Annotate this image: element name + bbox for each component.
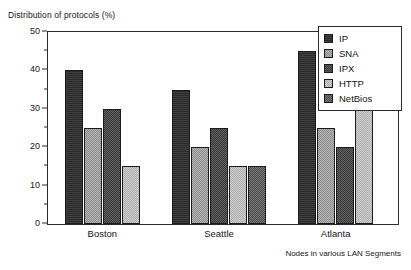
legend-item-label: SNA bbox=[339, 49, 359, 59]
bar bbox=[172, 90, 190, 224]
bar bbox=[298, 51, 316, 224]
x-axis: BostonSeattleAtlanta bbox=[48, 228, 398, 244]
bar bbox=[65, 70, 83, 224]
x-tick-label: Boston bbox=[88, 228, 118, 239]
y-tick-label: 20 bbox=[30, 141, 40, 151]
bar bbox=[336, 147, 354, 224]
x-axis-caption: Nodes in various LAN Segments bbox=[285, 249, 401, 258]
bar bbox=[355, 109, 373, 224]
chart-root: Distribution of protocols (%) 0102030405… bbox=[0, 0, 411, 270]
legend-item: NetBios bbox=[324, 91, 397, 106]
bar bbox=[248, 166, 266, 224]
legend-item: HTTP bbox=[324, 76, 397, 91]
legend-swatch-ip bbox=[324, 34, 333, 43]
bar-group bbox=[65, 32, 140, 224]
legend-swatch-sna bbox=[324, 49, 333, 58]
legend-item: IPX bbox=[324, 61, 397, 76]
y-tick-label: 10 bbox=[30, 180, 40, 190]
bar bbox=[122, 166, 140, 224]
bar bbox=[210, 128, 228, 224]
y-tick-label: 40 bbox=[30, 64, 40, 74]
bar bbox=[103, 109, 121, 224]
legend-item-label: IP bbox=[339, 34, 348, 44]
legend-swatch-netbios bbox=[324, 94, 333, 103]
legend-item-label: HTTP bbox=[339, 79, 364, 89]
x-tick-label: Atlanta bbox=[321, 228, 351, 239]
bar-group bbox=[172, 32, 266, 224]
bar bbox=[229, 166, 247, 224]
x-tick-label: Seattle bbox=[204, 228, 234, 239]
y-tick-label: 0 bbox=[35, 218, 40, 228]
bar bbox=[191, 147, 209, 224]
chart-title: Distribution of protocols (%) bbox=[8, 10, 115, 20]
legend-item: SNA bbox=[324, 46, 397, 61]
legend-item-label: NetBios bbox=[339, 94, 372, 104]
legend-item: IP bbox=[324, 31, 397, 46]
legend-item-label: IPX bbox=[339, 64, 354, 74]
y-tick-label: 50 bbox=[30, 26, 40, 36]
legend-swatch-http bbox=[324, 79, 333, 88]
legend-swatch-ipx bbox=[324, 64, 333, 73]
bar bbox=[84, 128, 102, 224]
y-tick-label: 30 bbox=[30, 103, 40, 113]
bar bbox=[317, 128, 335, 224]
y-axis: 01020304050 bbox=[0, 31, 47, 225]
chart-legend: IPSNAIPXHTTPNetBios bbox=[318, 26, 402, 111]
